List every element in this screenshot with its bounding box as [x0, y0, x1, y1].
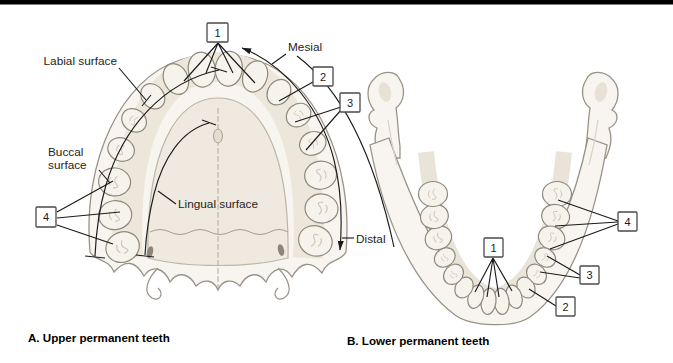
- hamulus-right: [275, 268, 289, 299]
- marker-number: 2: [320, 71, 326, 83]
- tooth: [419, 182, 448, 207]
- marker-number: 2: [562, 301, 568, 313]
- mesial-leader-line: [272, 54, 286, 64]
- marker-number: 4: [624, 216, 630, 228]
- marker-number: 1: [490, 242, 496, 254]
- caption-panel-a: A. Upper permanent teeth: [28, 331, 170, 344]
- figure-teeth-plate: Labial surface Buccal surface Lingual su…: [0, 0, 673, 363]
- caption-panel-b: B. Lower permanent teeth: [347, 334, 489, 347]
- lower-jaw-illustration: [368, 72, 618, 324]
- upper-jaw-illustration: [89, 50, 347, 299]
- incisive-papilla: [214, 129, 223, 143]
- marker-number: 3: [347, 97, 353, 109]
- marker-number: 3: [586, 269, 592, 281]
- label-distal: Distal: [356, 232, 386, 246]
- label-buccal-line2: surface: [48, 158, 87, 172]
- marker-number: 4: [43, 211, 49, 223]
- label-labial-surface: Labial surface: [44, 54, 118, 68]
- label-mesial: Mesial: [288, 40, 322, 54]
- marker-number: 1: [214, 27, 220, 39]
- label-lingual-surface: Lingual surface: [178, 197, 258, 211]
- hamulus-left: [147, 268, 161, 299]
- label-buccal-line1: Buccal: [48, 145, 83, 159]
- figure-canvas: Labial surface Buccal surface Lingual su…: [0, 0, 673, 363]
- top-rule-bar: [0, 0, 673, 5]
